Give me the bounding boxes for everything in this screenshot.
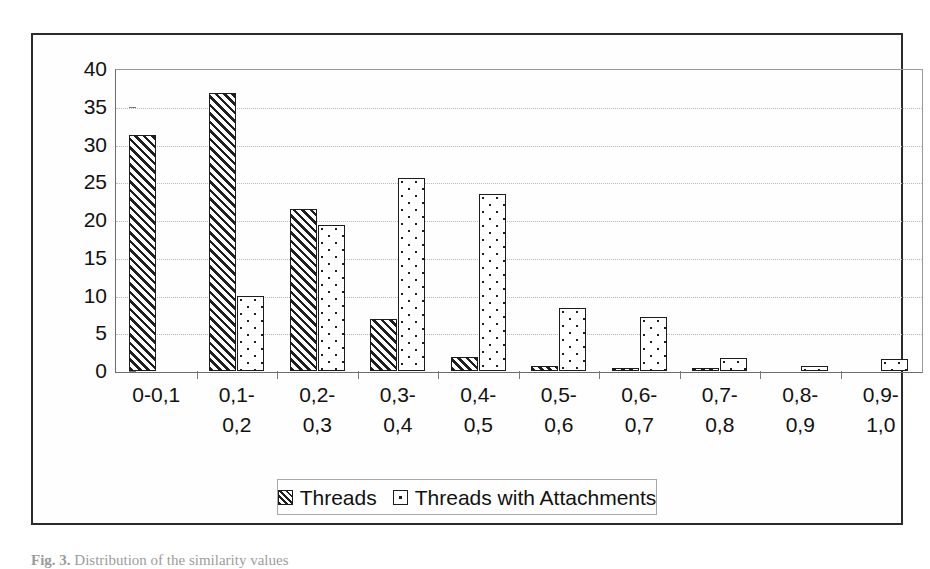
x-axis-tick-mark [438, 371, 439, 379]
legend-swatch-threads [278, 490, 293, 505]
x-axis-tick-mark [197, 371, 198, 379]
x-axis-label-line: 0,2- [277, 380, 358, 410]
x-axis-tick-mark [760, 371, 761, 379]
bar-group [841, 69, 922, 371]
bar-threads-with-attachments [720, 358, 747, 371]
bar-group [519, 69, 600, 371]
x-axis-label-line: 0,9- [841, 380, 922, 410]
x-axis-label-line: 0,6- [599, 380, 680, 410]
x-axis-label-line: 0,4 [358, 410, 439, 440]
x-axis-tick-mark [519, 371, 520, 379]
y-axis-tick-label: 40 [63, 58, 107, 79]
x-axis-label-line: 0,8- [760, 380, 841, 410]
figure-caption-prefix: Fig. 3. [31, 552, 71, 568]
y-axis-tick-label: 35 [63, 96, 107, 117]
bar-threads-with-attachments [237, 296, 264, 372]
x-axis-label-line: 0,8 [680, 410, 761, 440]
x-axis-tick-mark [841, 371, 842, 379]
bar-threads [451, 357, 478, 371]
x-axis-label-line: 1,0 [841, 410, 922, 440]
y-axis-tick-label: 15 [63, 247, 107, 268]
bar-threads-with-attachments [801, 366, 828, 371]
x-axis-label-line: 0,2 [197, 410, 278, 440]
x-axis-category-label: 0,2-0,3 [277, 380, 358, 440]
bar-threads-with-attachments [318, 225, 345, 371]
y-axis-tick-label: 5 [63, 322, 107, 343]
y-axis-tick-label: 20 [63, 209, 107, 230]
y-axis-tick-label: 25 [63, 171, 107, 192]
bar-threads-with-attachments [559, 308, 586, 371]
x-axis-label-line: 0,3- [358, 380, 439, 410]
x-axis-label-line: 0,7- [680, 380, 761, 410]
figure-frame: 0510152025303540 0-0,10,1-0,20,2-0,30,3-… [31, 33, 903, 525]
x-axis-category-label: 0,5-0,6 [519, 380, 600, 440]
x-axis-tick-mark [277, 371, 278, 379]
bar-group [760, 69, 841, 371]
x-axis-category-label: 0,3-0,4 [358, 380, 439, 440]
bar-group [358, 69, 439, 371]
y-axis-tick-label: 10 [63, 285, 107, 306]
bar-group [680, 69, 761, 371]
figure-caption: Fig. 3. Distribution of the similarity v… [31, 551, 911, 569]
x-axis-label-line: 0,3 [277, 410, 358, 440]
bar-threads [290, 209, 317, 371]
x-axis-category-label: 0,6-0,7 [599, 380, 680, 440]
legend-label: Threads [300, 487, 377, 508]
x-axis-label-line: 0,6 [519, 410, 600, 440]
bar-threads-with-attachments [479, 194, 506, 371]
chart-legend: ThreadsThreads with Attachments [277, 479, 657, 515]
bar-group [197, 69, 278, 371]
y-axis-tick-label: 0 [63, 360, 107, 381]
x-axis-category-label: 0,7-0,8 [680, 380, 761, 440]
bar-threads [370, 319, 397, 371]
x-axis-label-line: 0,5 [438, 410, 519, 440]
bar-threads [612, 368, 639, 371]
x-axis-label-line: 0,9 [760, 410, 841, 440]
figure-caption-text: Distribution of the similarity values [74, 552, 288, 568]
bar-threads [209, 93, 236, 371]
x-axis-category-label: 0,9-1,0 [841, 380, 922, 440]
legend-label: Threads with Attachments [415, 487, 657, 508]
x-axis-category-label: 0,8-0,9 [760, 380, 841, 440]
x-axis-label-line: 0-0,1 [116, 380, 197, 410]
y-axis-tick-label: 30 [63, 134, 107, 155]
bar-threads [129, 135, 156, 371]
bar-group [438, 69, 519, 371]
x-axis-labels: 0-0,10,1-0,20,2-0,30,3-0,40,4-0,50,5-0,6… [116, 380, 921, 460]
bars-layer [116, 69, 921, 371]
x-axis-tick-mark [358, 371, 359, 379]
x-axis-category-label: 0-0,1 [116, 380, 197, 410]
x-axis-label-line: 0,7 [599, 410, 680, 440]
bar-group [599, 69, 680, 371]
x-axis-tick-mark [599, 371, 600, 379]
legend-swatch-threads-with-attachments [393, 490, 408, 505]
bar-threads-with-attachments [398, 178, 425, 371]
bar-threads [692, 368, 719, 371]
bar-group [116, 69, 197, 371]
bar-threads [531, 366, 558, 371]
y-axis: 0510152025303540 [55, 69, 107, 371]
bar-threads-with-attachments [640, 317, 667, 371]
x-axis-tick-mark [680, 371, 681, 379]
legend-entry: Threads [278, 487, 377, 508]
bar-threads-with-attachments [881, 359, 908, 371]
x-axis-label-line: 0,4- [438, 380, 519, 410]
x-axis-label-line: 0,5- [519, 380, 600, 410]
x-axis-category-label: 0,4-0,5 [438, 380, 519, 440]
bar-group [277, 69, 358, 371]
legend-entry: Threads with Attachments [393, 487, 657, 508]
x-axis-category-label: 0,1-0,2 [197, 380, 278, 440]
x-axis-label-line: 0,1- [197, 380, 278, 410]
